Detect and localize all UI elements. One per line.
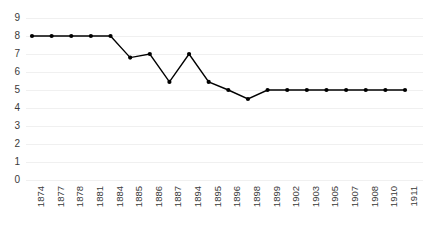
line-chart: 0123456789 18741877187818811884188518861… (0, 0, 423, 235)
data-point (246, 97, 250, 101)
data-point (285, 88, 289, 92)
data-point (324, 88, 328, 92)
data-point (305, 88, 309, 92)
series-markers (30, 34, 407, 101)
data-point (383, 88, 387, 92)
data-point (187, 52, 191, 56)
data-point (128, 56, 132, 60)
data-point (108, 34, 112, 38)
data-point (364, 88, 368, 92)
data-point (207, 80, 211, 84)
series-line (32, 36, 405, 99)
data-point (403, 88, 407, 92)
data-point (226, 88, 230, 92)
data-point (89, 34, 93, 38)
data-point (50, 34, 54, 38)
data-point (30, 34, 34, 38)
data-point (69, 34, 73, 38)
plot-area: 0123456789 18741877187818811884188518861… (0, 0, 423, 235)
data-point (148, 52, 152, 56)
data-point (344, 88, 348, 92)
data-point (167, 80, 171, 84)
data-point (265, 88, 269, 92)
data-series-layer (0, 0, 423, 235)
